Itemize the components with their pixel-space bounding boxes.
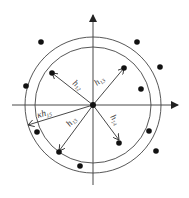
arrow-line (59, 105, 93, 151)
data-point (157, 64, 163, 70)
arrow-label: κh15 (36, 106, 53, 121)
data-point (56, 149, 62, 155)
arrow-label: h12 (70, 78, 85, 93)
coordinate-axes (12, 15, 178, 185)
data-point (116, 140, 122, 146)
arrow-line (52, 73, 93, 105)
radius-arrow-h12-upper-left: h12 (52, 73, 93, 105)
diagram-canvas: h12h13κh15h13h14 (0, 0, 189, 198)
radius-arrow-h14-lower-right: h14 (93, 105, 122, 140)
data-point (38, 39, 44, 45)
center-point (90, 102, 96, 108)
arrow-label-subscript: 13 (71, 117, 79, 125)
arrow-label-subscript: 13 (99, 77, 107, 85)
data-point (23, 83, 29, 89)
radius-arrow-kh15-left: κh15 (28, 105, 93, 125)
radius-arrow-h13-lower-left: h13 (59, 105, 93, 151)
data-point (121, 65, 127, 71)
arrow-label: h13 (92, 73, 107, 88)
data-point (134, 39, 140, 45)
radius-arrow-h13-upper-right: h13 (92, 68, 124, 105)
arrow-label-subscript: 14 (110, 119, 118, 127)
data-point (146, 128, 152, 134)
data-point (77, 163, 83, 169)
arrow-label: h14 (108, 112, 123, 127)
ball-neighborhood-diagram: h12h13κh15h13h14 (0, 0, 189, 198)
data-point (138, 86, 144, 92)
data-point (153, 148, 159, 154)
data-point (49, 70, 55, 76)
radius-arrows: h12h13κh15h13h14 (28, 68, 124, 151)
data-point (34, 129, 40, 135)
